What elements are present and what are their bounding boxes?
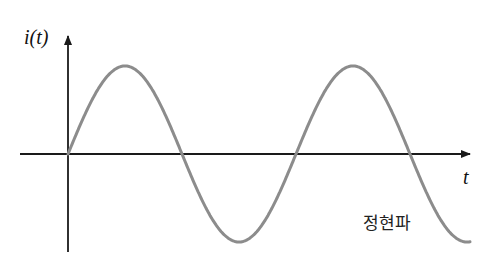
- y-axis-label: i(t): [24, 26, 49, 49]
- caption-label: 정현파: [363, 213, 411, 233]
- x-axis-label: t: [463, 166, 469, 188]
- sine-wave-diagram: i(t) t 정현파: [0, 0, 479, 268]
